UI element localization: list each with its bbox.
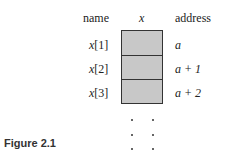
row-address-2: a + 1 — [175, 62, 201, 77]
memory-cell-2 — [121, 55, 163, 80]
header-name: name — [83, 11, 109, 26]
row-name-3: x[3] — [89, 86, 108, 101]
memory-cell-3 — [121, 79, 163, 104]
figure-caption: Figure 2.1 — [4, 137, 56, 149]
row-address-1: a — [175, 38, 181, 53]
header-address: address — [175, 11, 211, 26]
row-name-1: x[1] — [89, 38, 108, 53]
row-address-3: a + 2 — [175, 86, 201, 101]
memory-cell-1 — [121, 30, 163, 56]
header-x: x — [139, 11, 144, 26]
row-name-2: x[2] — [89, 62, 108, 77]
